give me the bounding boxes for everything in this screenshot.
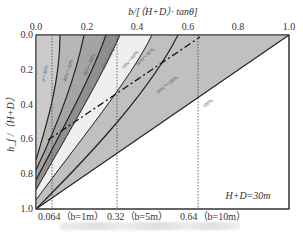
y-tick: 0.4 (21, 99, 34, 110)
ref-label-b10: 0.64（b=10m） (180, 211, 246, 222)
y-axis-title: h_f /（H+D） (5, 92, 16, 151)
y-tick: 0.0 (21, 29, 34, 40)
x-axis-title: b/[（H+D）· tanθ] (128, 6, 198, 17)
x-tick: 1.0 (283, 21, 296, 32)
chart-svg: 0～40% 40%～50% 50%～60% 60%～70% 70%～80% 80… (0, 0, 303, 236)
height-annotation: H+D=30m (224, 190, 270, 201)
y-tick: 0.6 (21, 133, 34, 144)
figure-caption-blurred (60, 222, 240, 230)
x-tick: 0.6 (182, 21, 195, 32)
x-tick: 0.8 (232, 21, 245, 32)
x-tick: 0.4 (131, 21, 144, 32)
y-ticks: 0.0 0.2 0.4 0.6 0.8 1.0 (21, 29, 34, 214)
ref-label-b1: 0.064（b=1m） (38, 211, 104, 222)
y-tick: 1.0 (21, 203, 34, 214)
x-ticks: 0.0 0.2 0.4 0.6 0.8 1.0 (30, 21, 296, 32)
x-tick: 0.2 (81, 21, 94, 32)
ref-label-b5: 0.32（b=5m） (107, 211, 168, 222)
y-tick: 0.8 (21, 168, 34, 179)
y-tick: 0.2 (21, 64, 34, 75)
